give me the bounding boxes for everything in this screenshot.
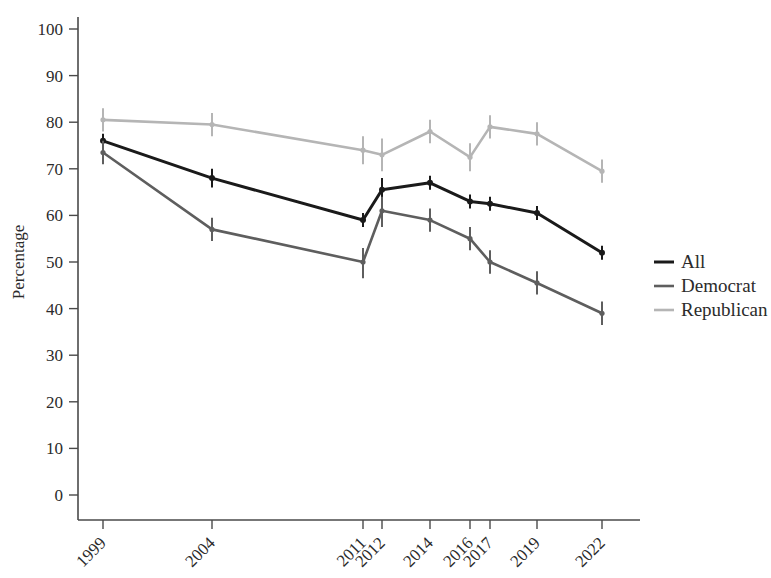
legend-label-democrat: Democrat bbox=[681, 275, 757, 296]
data-point bbox=[467, 155, 472, 160]
data-point bbox=[209, 227, 214, 232]
data-point bbox=[209, 175, 215, 181]
y-tick-label: 50 bbox=[46, 253, 63, 272]
data-point bbox=[360, 217, 366, 223]
data-point bbox=[379, 152, 384, 157]
y-tick-label: 10 bbox=[46, 439, 63, 458]
x-tick-label: 2019 bbox=[506, 533, 543, 570]
chart-legend: AllDemocratRepublican bbox=[654, 251, 768, 320]
series-line bbox=[103, 120, 602, 171]
y-tick-label: 0 bbox=[55, 486, 64, 505]
series-republican bbox=[100, 108, 604, 183]
x-tick-label: 1999 bbox=[72, 533, 109, 570]
data-point bbox=[534, 131, 539, 136]
y-tick-label: 80 bbox=[46, 113, 63, 132]
y-tick-label: 60 bbox=[46, 206, 63, 225]
data-point bbox=[379, 187, 385, 193]
y-tick-label: 70 bbox=[46, 160, 63, 179]
data-point bbox=[467, 198, 473, 204]
data-point bbox=[379, 208, 384, 213]
x-tick-label: 2022 bbox=[571, 533, 608, 570]
data-point bbox=[427, 217, 432, 222]
y-axis-label: Percentage bbox=[9, 225, 28, 300]
y-tick-label: 30 bbox=[46, 346, 63, 365]
data-point bbox=[427, 180, 433, 186]
y-tick-label: 100 bbox=[38, 20, 64, 39]
data-point bbox=[360, 148, 365, 153]
data-point bbox=[487, 124, 492, 129]
data-point bbox=[467, 236, 472, 241]
x-tick-label: 2014 bbox=[399, 533, 437, 571]
data-point bbox=[209, 122, 214, 127]
data-point bbox=[599, 250, 605, 256]
y-tick-label: 40 bbox=[46, 300, 63, 319]
series-line bbox=[103, 141, 602, 253]
y-axis: 0102030405060708090100 bbox=[38, 17, 79, 520]
series-democrat bbox=[100, 141, 604, 325]
data-point bbox=[599, 169, 604, 174]
data-point bbox=[100, 150, 105, 155]
series-all bbox=[100, 134, 605, 260]
legend-label-all: All bbox=[681, 251, 705, 272]
series-line bbox=[103, 152, 602, 313]
x-tick-label: 2004 bbox=[181, 533, 219, 571]
y-tick-label: 90 bbox=[46, 67, 63, 86]
data-point bbox=[487, 201, 493, 207]
data-point bbox=[360, 259, 365, 264]
y-axis-title: Percentage bbox=[9, 225, 28, 300]
data-point bbox=[487, 259, 492, 264]
data-point bbox=[534, 280, 539, 285]
data-point bbox=[599, 311, 604, 316]
legend-label-republican: Republican bbox=[681, 299, 768, 320]
data-series-group bbox=[100, 108, 605, 325]
x-axis: 199920042011201220142016201720192022 bbox=[72, 520, 640, 571]
data-point bbox=[534, 210, 540, 216]
data-point bbox=[427, 129, 432, 134]
chart-figure: 0102030405060708090100 19992004201120122… bbox=[0, 0, 771, 578]
y-tick-label: 20 bbox=[46, 393, 63, 412]
line-chart: 0102030405060708090100 19992004201120122… bbox=[0, 0, 771, 578]
data-point bbox=[100, 117, 105, 122]
